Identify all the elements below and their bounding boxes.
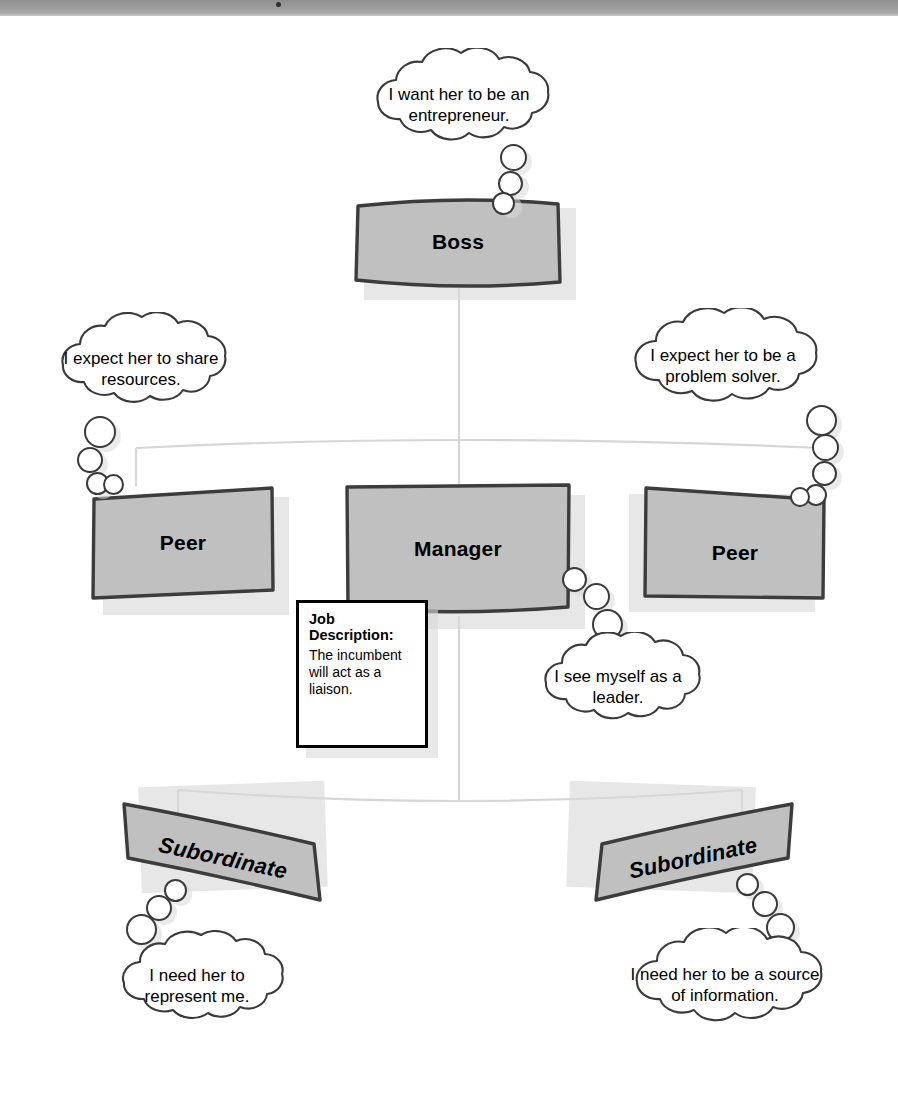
node-boss-label: Boss	[352, 196, 564, 288]
thought-bubble-subordinate-left[interactable]: I need her to represent me.	[84, 930, 310, 1044]
cloud-shape	[592, 928, 858, 1044]
thought-bubble-subordinate-right[interactable]: I need her to be a source of information…	[592, 928, 858, 1044]
tail-bubble	[77, 447, 103, 473]
thought-bubble-peer-right[interactable]: I expect her to be a problem solver.	[592, 308, 854, 426]
tail-bubble	[736, 873, 759, 896]
cloud-shape	[22, 312, 260, 428]
tail-bubble	[790, 487, 810, 507]
tail-bubble	[492, 192, 515, 215]
node-subordinate-left[interactable]: Subordinate	[118, 800, 326, 906]
thought-bubble-peer-left[interactable]: I expect her to share resources.	[22, 312, 260, 428]
node-subordinate-right[interactable]: Subordinate	[590, 800, 798, 906]
node-peer-left[interactable]: Peer	[90, 484, 276, 602]
job-description-body: The incumbent will act as a liaison.	[309, 647, 416, 697]
tail-bubble	[583, 583, 610, 610]
cloud-shape	[592, 308, 854, 426]
job-description-card[interactable]: Job Description: The incumbent will act …	[296, 600, 428, 748]
node-peer-left-label: Peer	[90, 484, 276, 602]
tail-bubble	[103, 474, 124, 495]
job-description-title: Job Description:	[309, 611, 416, 643]
thought-bubble-manager[interactable]: I see myself as a leader.	[508, 632, 728, 744]
cloud-shape	[334, 48, 584, 164]
diagram-canvas: Boss Peer Manager Peer Subordinate	[0, 0, 898, 1103]
tail-bubble	[812, 434, 839, 461]
node-boss[interactable]: Boss	[352, 196, 564, 288]
tail-bubble	[812, 461, 837, 486]
tail-bubble	[562, 567, 587, 592]
thought-bubble-boss[interactable]: I want her to be an entrepreneur.	[334, 48, 584, 164]
cloud-shape	[508, 632, 728, 744]
node-manager[interactable]: Manager	[344, 482, 572, 616]
cloud-shape	[84, 930, 310, 1044]
